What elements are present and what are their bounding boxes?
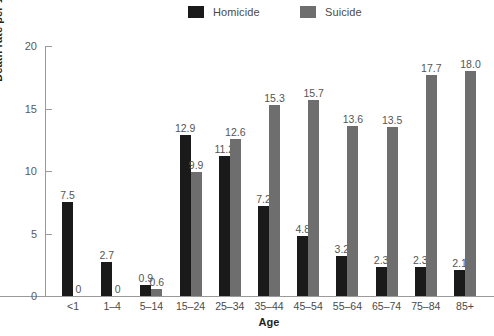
legend-swatch-suicide <box>300 6 316 18</box>
bar-suicide: 13.5 <box>387 127 398 296</box>
bar-suicide: 9.9 <box>191 172 202 296</box>
bar-value-label: 0 <box>76 283 82 295</box>
x-category-label: <1 <box>67 300 79 312</box>
y-tick-mark <box>46 109 52 110</box>
legend-item-homicide: Homicide <box>188 4 260 20</box>
bar-homicide: 7.5 <box>62 202 73 296</box>
bar-value-label: 12.6 <box>225 126 245 138</box>
bar-group: 3.213.6 <box>336 46 358 296</box>
x-category-label: 85+ <box>456 300 474 312</box>
bar-group: 4.815.7 <box>297 46 319 296</box>
x-category-label: 55–64 <box>333 300 362 312</box>
bar-value-label: 13.5 <box>382 114 402 126</box>
bar-homicide: 2.3 <box>376 267 387 296</box>
bar-group: 11.212.6 <box>219 46 241 296</box>
y-tick-mark <box>46 171 52 172</box>
bar-value-label: 15.3 <box>264 92 284 104</box>
bar-group: 12.99.9 <box>180 46 202 296</box>
bar-homicide: 3.2 <box>336 256 347 296</box>
bar-group: 2.70 <box>101 46 123 296</box>
x-category-label: 65–74 <box>372 300 401 312</box>
legend-label-suicide: Suicide <box>325 6 362 18</box>
y-tick: 5 <box>45 234 53 235</box>
bar-value-label: 12.9 <box>175 122 195 134</box>
y-tick-label: 20 <box>25 40 37 52</box>
bar-value-label: 15.7 <box>303 87 323 99</box>
bar-homicide: 4.8 <box>297 236 308 296</box>
bar-homicide: 2.7 <box>101 262 112 296</box>
bar-value-label: 18.0 <box>460 58 480 70</box>
bar-suicide: 15.7 <box>308 100 319 296</box>
bar-value-label: 0.6 <box>150 276 165 288</box>
x-axis-line <box>0 296 494 297</box>
x-category-label: 15–24 <box>176 300 205 312</box>
bar-suicide: 17.7 <box>426 75 437 296</box>
bar-group: 7.215.3 <box>258 46 280 296</box>
bar-homicide: 2.3 <box>415 267 426 296</box>
bar-homicide: 11.2 <box>219 156 230 296</box>
bar-chart: Homicide Suicide Death rate per 100,000 … <box>0 0 494 336</box>
bar-suicide: 15.3 <box>269 105 280 296</box>
y-tick: 20 <box>45 46 53 47</box>
bar-suicide: 13.6 <box>347 126 358 296</box>
bar-suicide: 0.6 <box>151 289 162 297</box>
bar-group: 7.50 <box>62 46 84 296</box>
y-tick-mark <box>46 46 52 47</box>
y-tick-label: 5 <box>31 228 37 240</box>
x-category-label: 1–4 <box>103 300 121 312</box>
legend-label-homicide: Homicide <box>213 6 260 18</box>
legend-item-suicide: Suicide <box>300 4 362 20</box>
bar-homicide: 2.1 <box>454 270 465 296</box>
x-category-label: 5–14 <box>140 300 163 312</box>
x-category-label: 25–34 <box>215 300 244 312</box>
bar-value-label: 7.5 <box>60 189 75 201</box>
bar-group: 2.317.7 <box>415 46 437 296</box>
bar-suicide: 12.6 <box>230 139 241 297</box>
y-tick: 10 <box>45 171 53 172</box>
y-axis-title: Death rate per 100,000 population <box>0 0 4 92</box>
y-tick: 15 <box>45 109 53 110</box>
bar-value-label: 17.7 <box>421 62 441 74</box>
bar-suicide: 18.0 <box>465 71 476 296</box>
bar-value-label: 0 <box>115 283 121 295</box>
bar-group: 2.313.5 <box>376 46 398 296</box>
bar-homicide: 7.2 <box>258 206 269 296</box>
y-tick-label: 10 <box>25 165 37 177</box>
bar-value-label: 2.7 <box>99 249 114 261</box>
bar-value-label: 13.6 <box>343 113 363 125</box>
x-category-label: 75–84 <box>411 300 440 312</box>
bar-value-label: 9.9 <box>189 159 204 171</box>
y-tick-label: 15 <box>25 103 37 115</box>
x-axis-title: Age <box>45 316 493 328</box>
y-tick-label: 0 <box>31 290 37 302</box>
y-tick-mark <box>46 234 52 235</box>
y-tick: 0 <box>45 296 53 297</box>
x-category-label: 35–44 <box>254 300 283 312</box>
plot-area: 05101520 7.502.700.90.612.99.911.212.67.… <box>45 46 493 296</box>
x-category-label: 45–54 <box>294 300 323 312</box>
bar-group: 0.90.6 <box>140 46 162 296</box>
y-tick-mark <box>46 296 52 297</box>
bar-group: 2.118.0 <box>454 46 476 296</box>
chart-legend: Homicide Suicide <box>0 4 494 22</box>
legend-swatch-homicide <box>188 6 204 18</box>
